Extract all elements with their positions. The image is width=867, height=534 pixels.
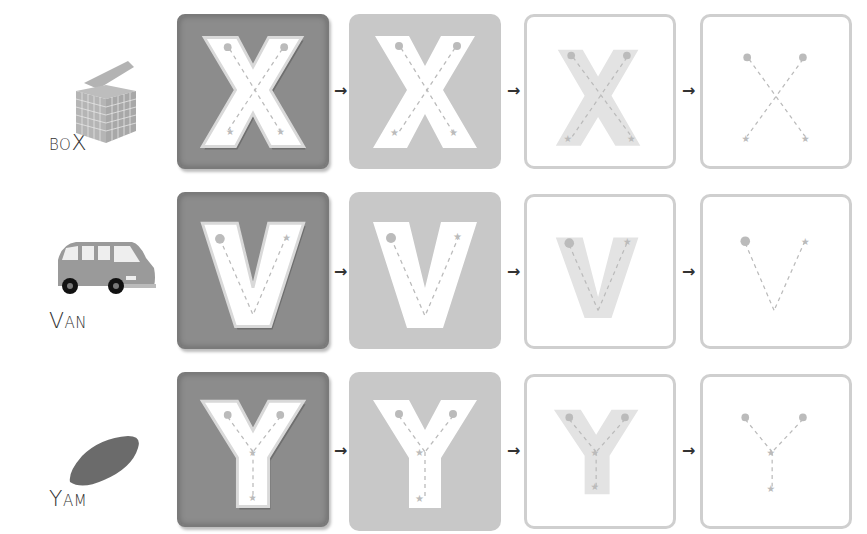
letter-x-filled: ★★: [349, 14, 501, 169]
svg-text:★: ★: [453, 231, 462, 242]
svg-text:★: ★: [415, 493, 424, 504]
trace-card-shaded: ★★: [524, 374, 676, 529]
trace-card-shaded: ★: [524, 194, 676, 349]
arrow-icon: →: [682, 81, 694, 100]
arrow-icon: →: [682, 262, 694, 281]
word-first-letter: B: [49, 136, 59, 154]
trace-card-filled: ★★: [349, 14, 501, 169]
trace-card-shaded: ★★: [524, 14, 676, 169]
arrow-icon: →: [507, 262, 519, 281]
svg-text:★: ★: [766, 447, 775, 458]
svg-text:★: ★: [415, 447, 424, 458]
svg-text:★: ★: [390, 127, 399, 138]
svg-text:★: ★: [248, 447, 257, 458]
svg-text:★: ★: [623, 236, 632, 247]
row-letter-y: YAM ★★ → ★★ →: [0, 360, 867, 534]
trace-card-embossed: ★★: [177, 14, 329, 169]
svg-text:★: ★: [226, 126, 235, 137]
word-first-letter: Y: [49, 486, 63, 511]
arrow-icon: →: [507, 81, 519, 100]
svg-text:★: ★: [590, 447, 599, 458]
word-label-yam: YAM: [49, 486, 87, 511]
svg-text:★: ★: [590, 481, 599, 492]
yam-icon: [66, 434, 142, 488]
word-label-van: VAN: [49, 308, 87, 333]
letter-v-shaded: ★: [527, 197, 673, 346]
letter-v-filled: ★: [349, 192, 501, 349]
arrow-icon: →: [334, 262, 346, 281]
row-letter-x: BOX ★★ →: [0, 0, 867, 180]
trace-card-dashed: ★★: [700, 374, 852, 529]
van-icon: [54, 238, 158, 298]
svg-text:★: ★: [801, 236, 810, 247]
trace-card-embossed: ★: [177, 192, 329, 349]
letter-y-filled: ★★: [349, 372, 501, 531]
svg-text:★: ★: [564, 133, 573, 144]
letter-y-shaded: ★★: [527, 377, 673, 526]
svg-text:★: ★: [449, 127, 458, 138]
svg-text:★: ★: [801, 133, 810, 144]
letter-y-embossed: ★★: [179, 374, 327, 525]
word-rest: AM: [63, 492, 87, 510]
arrow-icon: →: [507, 441, 519, 460]
trace-card-filled: ★: [349, 192, 501, 349]
letter-v-dashed: ★: [703, 197, 849, 346]
svg-text:★: ★: [627, 133, 636, 144]
arrow-icon: →: [682, 441, 694, 460]
svg-text:★: ★: [282, 232, 291, 243]
trace-card-dashed: ★: [700, 194, 852, 349]
letter-x-embossed: ★★: [179, 16, 327, 167]
word-first-letter: V: [49, 308, 65, 333]
svg-text:★: ★: [276, 126, 285, 137]
letter-x-dashed: ★★: [703, 17, 849, 166]
svg-text:★: ★: [766, 483, 775, 494]
letter-v-embossed: ★: [179, 194, 327, 347]
arrow-icon: →: [334, 81, 346, 100]
svg-text:★: ★: [741, 133, 750, 144]
trace-card-filled: ★★: [349, 372, 501, 531]
row-letter-v: VAN ★ →: [0, 180, 867, 360]
svg-text:★: ★: [248, 492, 257, 503]
letter-x-shaded: ★★: [527, 17, 673, 166]
box-icon: [70, 45, 142, 145]
word-rest: AN: [65, 314, 87, 332]
arrow-icon: →: [334, 441, 346, 460]
trace-card-embossed: ★★: [177, 372, 329, 527]
letter-y-dashed: ★★: [703, 377, 849, 526]
trace-card-dashed: ★★: [700, 14, 852, 169]
